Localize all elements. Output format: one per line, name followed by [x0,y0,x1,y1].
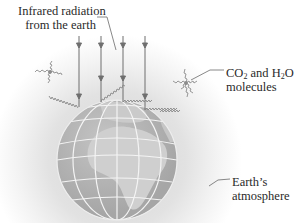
label-atmosphere-line2: atmosphere [232,189,290,203]
greenhouse-diagram: Infrared radiation from the earth CO2 an… [0,0,302,223]
label-infrared-line2: from the earth [18,18,96,32]
label-molecules-line1: CO2 and H2O [226,66,294,80]
label-earths-atmosphere: Earth’s atmosphere [232,175,290,203]
and-h-text: and H [247,66,280,80]
label-molecules-line2: molecules [226,80,294,94]
label-infrared-line1: Infrared radiation [18,4,96,18]
label-infrared-radiation: Infrared radiation from the earth [18,4,96,32]
label-co2-h2o-molecules: CO2 and H2O molecules [226,66,294,94]
label-atmosphere-line1: Earth’s [232,175,290,189]
earth-globe [57,100,177,220]
o-text: O [285,66,294,80]
co-text: CO [226,66,243,80]
